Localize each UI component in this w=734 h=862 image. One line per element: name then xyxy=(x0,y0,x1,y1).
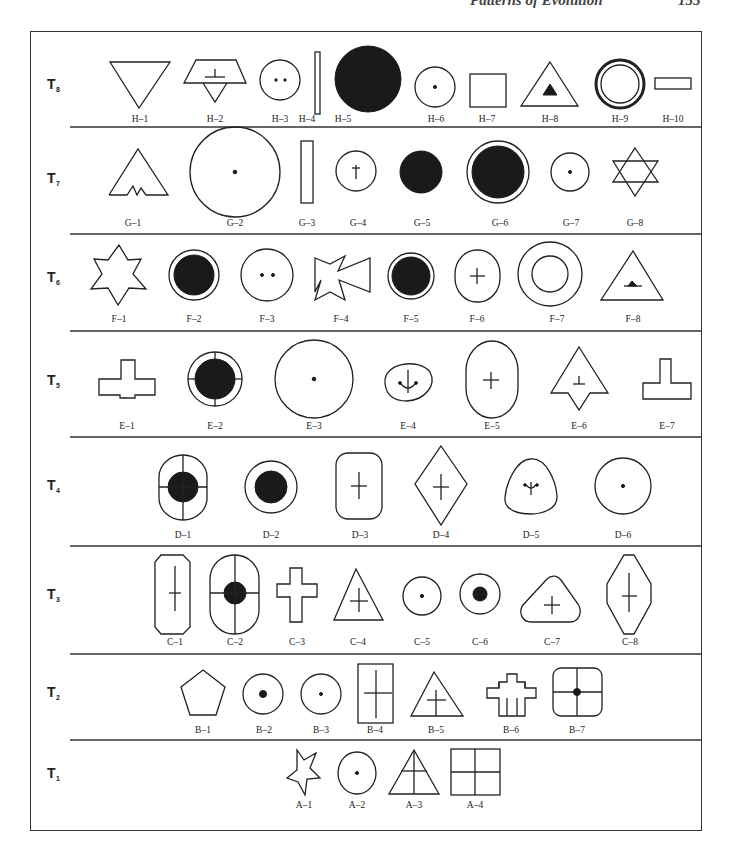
shape-f7-concentric-circles-icon: F–7 xyxy=(518,242,582,324)
shape-g8-six-point-star-icon: G–8 xyxy=(613,148,658,228)
svg-text:G–2: G–2 xyxy=(227,218,244,228)
svg-text:1: 1 xyxy=(56,775,60,782)
svg-text:7: 7 xyxy=(56,180,60,187)
shape-a1-five-point-star-icon: A–1 xyxy=(287,750,320,810)
shape-b3-circle-dot-icon: B–3 xyxy=(301,674,341,735)
svg-text:C–8: C–8 xyxy=(622,637,638,647)
shape-a2-circle-dot-icon: A–2 xyxy=(338,752,376,810)
svg-text:H–4: H–4 xyxy=(299,114,316,124)
svg-text:H–2: H–2 xyxy=(207,114,224,124)
shape-g7-circle-dot-icon: G–7 xyxy=(551,153,589,228)
svg-text:D–2: D–2 xyxy=(263,530,280,540)
shape-d4-diamond-cross-icon: D–4 xyxy=(415,446,467,540)
svg-text:F–4: F–4 xyxy=(334,314,349,324)
shape-f2-filled-circle-ring-icon: F–2 xyxy=(169,250,219,324)
shape-e2-ring-ticks-icon: E–2 xyxy=(188,352,242,431)
svg-text:F–7: F–7 xyxy=(550,314,565,324)
row-dividers xyxy=(70,127,701,740)
svg-text:A–1: A–1 xyxy=(296,800,313,810)
svg-text:F–8: F–8 xyxy=(626,314,641,324)
shape-g4-circle-cross-icon: G–4 xyxy=(336,151,376,228)
svg-text:F–3: F–3 xyxy=(260,314,275,324)
svg-text:F–2: F–2 xyxy=(187,314,202,324)
shape-h2-trapezoid-icon: H–2 xyxy=(184,60,246,124)
svg-text:F–6: F–6 xyxy=(470,314,485,324)
tier-label-t2: T2 xyxy=(47,684,60,701)
svg-text:A–4: A–4 xyxy=(467,800,484,810)
shape-h10-small-rectangle-icon: H–10 xyxy=(655,78,691,124)
shape-h5-filled-circle-icon: H–5 xyxy=(335,46,401,124)
shape-d3-rounded-rectangle-cross-icon: D–3 xyxy=(336,453,382,540)
svg-text:8: 8 xyxy=(56,86,60,93)
svg-text:D–3: D–3 xyxy=(352,530,369,540)
shape-e1-t-shaped-cross-icon: E–1 xyxy=(99,360,155,431)
shape-d2-circle-filled-inner-icon: D–2 xyxy=(245,461,297,540)
svg-text:G–4: G–4 xyxy=(350,218,367,228)
svg-text:T: T xyxy=(47,765,56,781)
shape-c7-rounded-triangle-cross-icon: C–7 xyxy=(521,576,580,647)
svg-text:B–2: B–2 xyxy=(256,725,272,735)
tier-label-t4: T4 xyxy=(47,477,60,494)
svg-text:H–8: H–8 xyxy=(542,114,559,124)
svg-text:E–3: E–3 xyxy=(306,421,322,431)
evolution-figure: T8 T7 T6 T5 T4 T3 T2 T1 H–1 H–2 H–3 H–4 … xyxy=(0,0,734,862)
svg-text:C–7: C–7 xyxy=(544,637,560,647)
svg-text:G–3: G–3 xyxy=(299,218,316,228)
svg-text:C–1: C–1 xyxy=(167,637,183,647)
shape-h6-circle-dot-icon: H–6 xyxy=(415,67,455,124)
shape-c8-elongated-octagon-cross-icon: C–8 xyxy=(607,555,651,647)
svg-text:D–1: D–1 xyxy=(175,530,192,540)
svg-text:T: T xyxy=(47,269,56,285)
shape-b4-rectangle-cross-icon: B–4 xyxy=(358,664,393,735)
svg-text:A–2: A–2 xyxy=(349,800,366,810)
shape-c5-circle-dot-icon: C–5 xyxy=(403,577,441,647)
shape-c3-greek-cross-icon: C–3 xyxy=(277,568,317,647)
shape-d5-rounded-triangle-anchor-icon: D–5 xyxy=(505,459,557,540)
svg-text:T: T xyxy=(47,372,56,388)
svg-text:G–8: G–8 xyxy=(627,218,644,228)
svg-text:B–6: B–6 xyxy=(503,725,519,735)
svg-text:H–5: H–5 xyxy=(335,114,352,124)
shape-b2-circle-filled-dot-icon: B–2 xyxy=(243,674,283,735)
svg-text:H–1: H–1 xyxy=(132,114,149,124)
svg-text:C–3: C–3 xyxy=(289,637,305,647)
svg-text:C–2: C–2 xyxy=(227,637,243,647)
svg-text:B–7: B–7 xyxy=(569,725,585,735)
svg-text:B–3: B–3 xyxy=(313,725,329,735)
shape-a3-triangle-cross-icon: A–3 xyxy=(389,750,439,810)
shape-g5-filled-circle-icon: G–5 xyxy=(400,151,442,228)
svg-text:3: 3 xyxy=(56,596,60,603)
shape-c4-triangle-cross-icon: C–4 xyxy=(334,569,383,647)
svg-text:D–5: D–5 xyxy=(523,530,540,540)
shape-f8-triangle-mound-icon: F–8 xyxy=(601,251,663,324)
svg-text:D–6: D–6 xyxy=(615,530,632,540)
shape-d6-circle-dot-icon: D–6 xyxy=(595,458,651,540)
svg-text:G–5: G–5 xyxy=(414,218,431,228)
svg-text:B–5: B–5 xyxy=(428,725,444,735)
svg-text:B–4: B–4 xyxy=(367,725,383,735)
svg-text:E–7: E–7 xyxy=(659,421,675,431)
svg-text:E–4: E–4 xyxy=(400,421,416,431)
shape-e5-tall-oval-cross-icon: E–5 xyxy=(466,341,518,431)
tier-label-t5: T5 xyxy=(47,372,60,389)
shape-b1-pentagon-icon: B–1 xyxy=(181,670,225,735)
shape-a4-square-quartered-icon: A–4 xyxy=(451,749,500,810)
tier-label-t7: T7 xyxy=(47,170,60,187)
shape-f5-filled-circle-ring-icon: F–5 xyxy=(388,253,434,324)
svg-text:H–10: H–10 xyxy=(662,114,683,124)
shape-c2-oval-filled-cross-icon: C–2 xyxy=(210,555,259,647)
shape-f4-maltese-cross-icon: F–4 xyxy=(315,256,370,324)
shape-g3-tall-rectangle-icon: G–3 xyxy=(299,141,316,228)
shape-h4-thin-rectangle-icon: H–4 xyxy=(299,52,320,124)
shape-b7-rounded-square-quartered-icon: B–7 xyxy=(553,668,602,735)
shape-h8-triangle-inner-filled-icon: H–8 xyxy=(521,62,578,124)
shape-f1-six-point-star-icon: F–1 xyxy=(91,245,146,324)
shape-c6-circle-filled-dot-icon: C–6 xyxy=(460,574,500,647)
shape-f3-circle-two-dots-icon: F–3 xyxy=(241,249,293,324)
svg-text:C–6: C–6 xyxy=(472,637,488,647)
svg-text:E–1: E–1 xyxy=(119,421,135,431)
tier-label-t6: T6 xyxy=(47,269,60,286)
shape-h9-double-ring-icon: H–9 xyxy=(596,60,644,124)
tier-label-t3: T3 xyxy=(47,586,60,603)
svg-text:E–5: E–5 xyxy=(484,421,500,431)
